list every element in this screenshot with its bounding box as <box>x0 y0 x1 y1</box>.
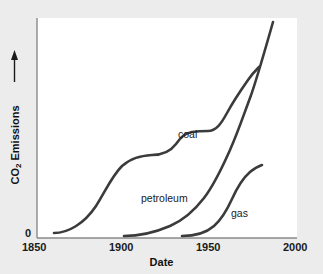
series-label-petroleum: petroleum <box>141 192 188 204</box>
series-label-coal: coal <box>178 128 197 140</box>
x-axis-title: Date <box>0 256 323 268</box>
up-arrow-icon <box>11 50 18 82</box>
co2-emissions-chart-figure: CO2 Emissions 0 1850 1900 1950 2000 Date… <box>0 0 323 274</box>
y-axis-title: CO2 Emissions <box>9 105 21 184</box>
series-label-gas: gas <box>231 207 248 219</box>
x-tick-label-1900: 1900 <box>109 241 133 253</box>
y-tick-label-0: 0 <box>25 227 31 239</box>
x-tick-label-2000: 2000 <box>283 241 307 253</box>
x-tick-label-1850: 1850 <box>22 241 46 253</box>
y-axis-title-container: CO2 Emissions <box>6 90 24 200</box>
y-axis-title-subscript: 2 <box>14 164 23 168</box>
y-axis-title-rest: Emissions <box>9 105 21 163</box>
x-tick-label-1950: 1950 <box>196 241 220 253</box>
y-axis-title-main: CO <box>9 168 21 185</box>
plot-area-background <box>37 18 297 238</box>
chart-plot-svg <box>0 0 323 274</box>
